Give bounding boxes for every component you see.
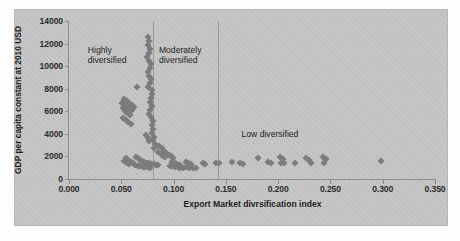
x-axis-line — [69, 179, 436, 180]
x-axis-title: Export Market divrsification index — [69, 199, 436, 209]
zone-annotation-label: Moderately diversified — [159, 45, 202, 66]
y-axis-tick-label: 10000 — [40, 61, 63, 71]
zone-annotation-label: Highly diversified — [88, 45, 127, 66]
y-axis-tick — [65, 44, 69, 45]
x-axis-tick-label: 0.300 — [372, 184, 393, 194]
y-axis-tick-label: 4000 — [44, 129, 63, 139]
y-axis-tick-label: 6000 — [44, 106, 63, 116]
x-axis-tick-label: 0.350 — [424, 184, 445, 194]
zone-annotation-label: Low diversified — [242, 129, 299, 140]
y-axis-tick — [65, 156, 69, 157]
y-axis-tick-label: 12000 — [40, 39, 63, 49]
x-axis-tick-label: 0.150 — [215, 184, 236, 194]
scatter-plot-figure: GDP per capita constant at 2010 USD Expo… — [0, 0, 460, 241]
x-axis-tick-label: 0.050 — [111, 184, 132, 194]
y-axis-title: GDP per capita constant at 2010 USD — [13, 26, 23, 174]
zone-divider-line — [218, 21, 219, 179]
page-margin-top — [0, 0, 460, 9]
y-axis-tick — [65, 89, 69, 90]
y-axis-tick-label: 0 — [58, 174, 63, 184]
x-axis-tick-label: 0.100 — [163, 184, 184, 194]
y-axis-tick-label: 2000 — [44, 151, 63, 161]
page-margin-right — [448, 0, 460, 241]
y-axis-tick — [65, 134, 69, 135]
page-margin-left — [0, 0, 14, 241]
y-axis-tick-label: 8000 — [44, 84, 63, 94]
x-axis-tick-label: 0.000 — [58, 184, 79, 194]
y-axis-tick — [65, 111, 69, 112]
y-axis-tick — [65, 21, 69, 22]
page-margin-bottom — [0, 226, 460, 241]
x-axis-tick-label: 0.200 — [268, 184, 289, 194]
zone-divider-line — [153, 21, 154, 179]
y-axis-tick — [65, 66, 69, 67]
y-axis-tick-label: 14000 — [40, 16, 63, 26]
x-axis-tick-label: 0.250 — [320, 184, 341, 194]
